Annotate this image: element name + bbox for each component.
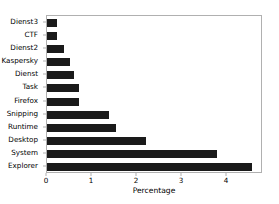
bar-row <box>47 84 261 92</box>
x-tick-label-4: 4 <box>224 177 229 185</box>
y-tick-label-task: Task <box>22 83 38 91</box>
y-tick-label-dienst2: Dienst2 <box>10 44 38 52</box>
bar-row <box>47 71 261 79</box>
bar-chart-figure: Dienst3CTFDienst2KasperskyDienstTaskFire… <box>0 0 279 204</box>
bar-ctf <box>47 32 57 40</box>
x-tick-label-3: 3 <box>179 177 184 185</box>
bar-dienst <box>47 71 74 79</box>
bar-row <box>47 32 261 40</box>
bar-row <box>47 124 261 132</box>
y-tick-label-dienst3: Dienst3 <box>10 18 38 26</box>
y-tick-label-ctf: CTF <box>24 31 38 39</box>
bar-system <box>47 150 217 158</box>
x-tick-label-1: 1 <box>89 177 94 185</box>
bar-row <box>47 19 261 27</box>
y-tick-label-dienst: Dienst <box>15 70 38 78</box>
bar-runtime <box>47 124 116 132</box>
bar-task <box>47 84 79 92</box>
x-axis-title: Percentage <box>46 186 262 195</box>
bar-row <box>47 58 261 66</box>
bar-row <box>47 137 261 145</box>
bar-row <box>47 111 261 119</box>
bar-explorer <box>47 163 252 171</box>
bars-layer <box>47 16 261 172</box>
bar-row <box>47 163 261 171</box>
plot-area <box>46 15 262 173</box>
x-axis-tick-labels: 01234 <box>46 173 262 187</box>
bar-snipping <box>47 111 109 119</box>
x-tick-label-0: 0 <box>44 177 49 185</box>
bar-row <box>47 150 261 158</box>
y-tick-label-desktop: Desktop <box>8 136 38 144</box>
bar-dienst3 <box>47 19 57 27</box>
bar-firefox <box>47 98 79 106</box>
y-tick-label-firefox: Firefox <box>14 97 38 105</box>
y-tick-label-system: System <box>11 149 38 157</box>
y-tick-label-runtime: Runtime <box>8 123 38 131</box>
y-tick-label-kaspersky: Kaspersky <box>1 57 38 65</box>
bar-desktop <box>47 137 146 145</box>
bar-dienst2 <box>47 45 64 53</box>
y-tick-label-explorer: Explorer <box>8 162 38 170</box>
y-axis-tick-labels: Dienst3CTFDienst2KasperskyDienstTaskFire… <box>0 15 43 173</box>
y-tick-label-snipping: Snipping <box>7 110 38 118</box>
x-tick-label-2: 2 <box>134 177 139 185</box>
bar-row <box>47 45 261 53</box>
bar-kaspersky <box>47 58 70 66</box>
bar-row <box>47 98 261 106</box>
